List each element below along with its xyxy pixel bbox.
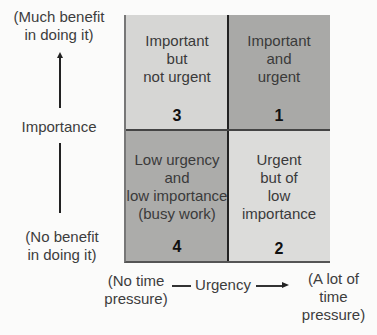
- x-right-line-1: (A lot of: [290, 270, 377, 288]
- y-top-line-1: (Much benefit: [0, 8, 118, 26]
- quadrant-number: 3: [126, 107, 228, 125]
- x-axis-line-left: [172, 285, 191, 287]
- x-axis-left-label: (No time pressure): [96, 272, 176, 308]
- q2-line: low: [228, 187, 330, 205]
- q4-line: (busy work): [126, 205, 228, 223]
- q4-line: low importance: [126, 187, 228, 205]
- q1-line: and: [228, 50, 330, 68]
- x-left-line-1: (No time: [96, 272, 176, 290]
- y-axis-line-lower: [59, 143, 61, 213]
- arrow-right-icon: [282, 282, 289, 288]
- quadrant-number: 1: [228, 107, 330, 125]
- q4-line: and: [126, 169, 228, 187]
- q3-line: Important: [126, 32, 228, 50]
- x-axis-right-label: (A lot of time pressure): [290, 270, 377, 324]
- q2-line: Urgent: [228, 151, 330, 169]
- y-bottom-line-1: (No benefit: [0, 228, 124, 246]
- quadrant-busy-work: Low urgency and low importance (busy wor…: [126, 130, 228, 261]
- y-axis-line-upper: [59, 56, 61, 108]
- x-axis-line-right: [256, 285, 282, 287]
- q4-line: Low urgency: [126, 151, 228, 169]
- quadrant-important-not-urgent: Important but not urgent 3: [126, 15, 228, 130]
- vertical-divider: [227, 15, 229, 261]
- quadrant-number: 2: [228, 240, 330, 258]
- q2-line: but of: [228, 169, 330, 187]
- quadrant-number: 4: [126, 238, 228, 256]
- y-top-line-2: in doing it): [0, 26, 118, 44]
- x-right-line-3: pressure): [290, 306, 377, 324]
- q1-line: urgent: [228, 68, 330, 86]
- y-bottom-line-2: in doing it): [0, 246, 124, 264]
- priority-matrix: Important but not urgent 3 Important and…: [124, 15, 330, 263]
- q2-line: importance: [228, 205, 330, 223]
- x-axis-title: Urgency: [193, 276, 253, 294]
- y-axis-top-label: (Much benefit in doing it): [0, 8, 118, 44]
- q3-line: but: [126, 50, 228, 68]
- x-left-line-2: pressure): [96, 290, 176, 308]
- q3-line: not urgent: [126, 68, 228, 86]
- y-axis-title: Importance: [0, 118, 118, 136]
- quadrant-urgent-low-importance: Urgent but of low importance 2: [228, 130, 330, 261]
- quadrant-important-urgent: Important and urgent 1: [228, 15, 330, 130]
- y-axis-bottom-label: (No benefit in doing it): [0, 228, 124, 264]
- q1-line: Important: [228, 32, 330, 50]
- x-right-line-2: time: [290, 288, 377, 306]
- horizontal-divider: [126, 129, 330, 131]
